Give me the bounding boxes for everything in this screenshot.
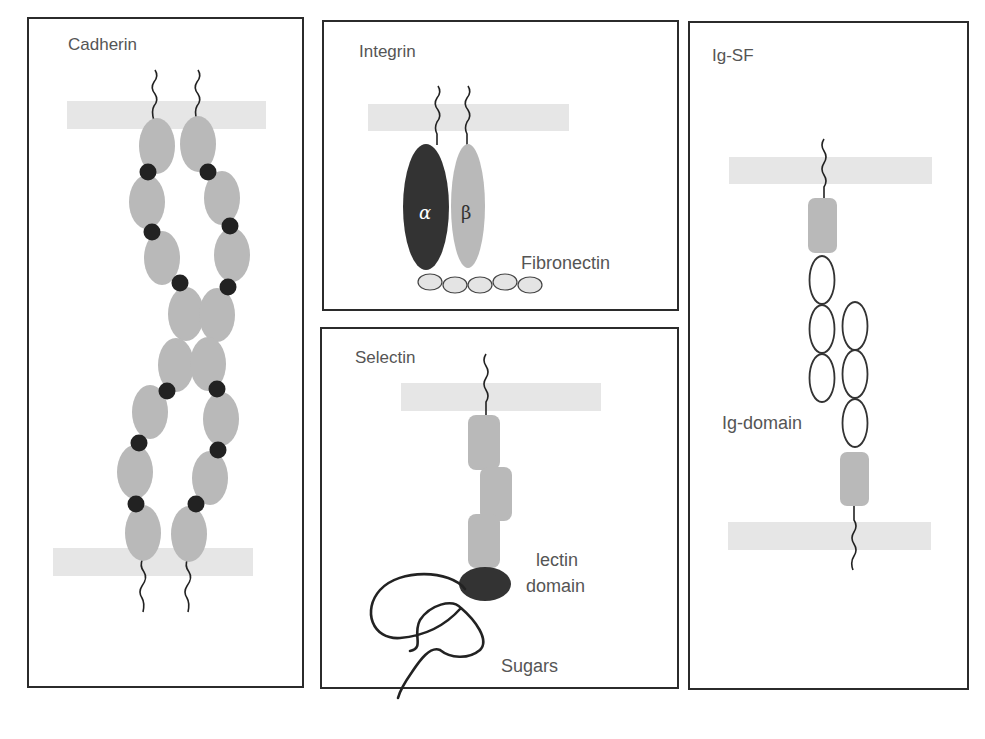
cadherin-title: Cadherin xyxy=(68,35,137,54)
igsf-membrane-proximal-domain-bottom xyxy=(840,452,869,506)
integrin-title: Integrin xyxy=(359,42,416,61)
lectin-label-line2: domain xyxy=(526,576,585,596)
selectin-panel: Selectin lectin domain Sugars xyxy=(321,328,678,698)
integrin-panel: Integrin α β Fibronectin xyxy=(323,21,678,310)
lectin-domain xyxy=(459,567,511,601)
igsf-top-membrane xyxy=(729,157,932,184)
ig-domain-label: Ig-domain xyxy=(722,413,802,433)
igsf-panel-border xyxy=(689,22,968,689)
integrin-membrane xyxy=(368,104,569,131)
cell-adhesion-molecules-diagram: Cadherin xyxy=(0,0,985,739)
alpha-label: α xyxy=(419,202,431,223)
fibronectin-label: Fibronectin xyxy=(521,253,610,273)
igsf-membrane-proximal-domain-top xyxy=(808,198,837,253)
integrin-panel-border xyxy=(323,21,678,310)
selectin-membrane xyxy=(401,383,601,411)
igsf-panel: Ig-SF Ig-domain xyxy=(689,22,968,689)
igsf-bottom-membrane xyxy=(728,522,931,550)
igsf-title: Ig-SF xyxy=(712,46,754,65)
cadherin-panel: Cadherin xyxy=(28,18,303,687)
beta-label: β xyxy=(461,202,471,223)
selectin-title: Selectin xyxy=(355,348,415,367)
lectin-label-line1: lectin xyxy=(536,550,578,570)
sugars-label: Sugars xyxy=(501,656,558,676)
